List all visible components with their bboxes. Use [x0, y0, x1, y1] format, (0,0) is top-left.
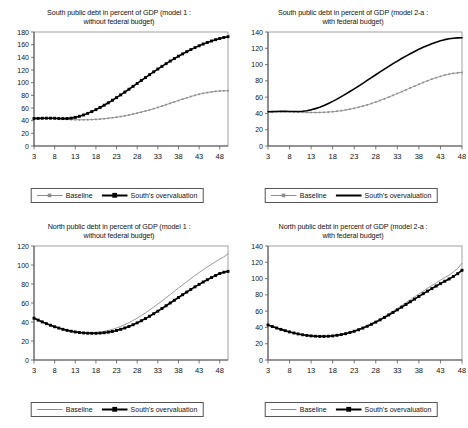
series-marker — [132, 323, 135, 326]
series-marker — [327, 335, 330, 338]
series-marker — [430, 287, 433, 290]
series-marker — [396, 308, 399, 311]
series-marker — [156, 68, 159, 71]
series-marker — [222, 271, 225, 274]
series-marker — [53, 325, 56, 328]
series-marker — [353, 330, 356, 333]
y-tick-label: 140 — [251, 29, 263, 36]
series-marker — [366, 325, 369, 328]
legend-label-overvaluation: South's overvaluation — [131, 405, 198, 414]
series-marker — [210, 40, 213, 43]
series-marker — [198, 283, 201, 286]
x-tick-label: 48 — [458, 366, 466, 375]
x-tick-label: 43 — [436, 152, 444, 161]
x-tick-label: 48 — [216, 366, 224, 375]
series-marker — [361, 327, 364, 330]
series-marker — [461, 269, 464, 272]
series-marker — [457, 72, 459, 74]
series-marker — [177, 296, 180, 299]
series-marker — [70, 330, 73, 333]
series-marker — [314, 335, 317, 338]
legend-key-baseline-icon — [271, 191, 297, 200]
series-marker — [86, 332, 89, 335]
series-marker — [206, 278, 209, 281]
y-tick-label: 80 — [255, 77, 263, 84]
x-tick-label: 23 — [350, 152, 358, 161]
series-marker — [61, 117, 64, 120]
series-marker — [136, 82, 139, 85]
series-marker — [99, 118, 101, 120]
series-marker — [103, 104, 106, 107]
series-marker — [140, 111, 142, 113]
plot-svg-north-model-1: 020406080100120381318232833384348 — [0, 240, 234, 392]
series-marker — [78, 331, 81, 334]
legend-item-overvaluation: South's overvaluation — [336, 191, 432, 200]
plot-svg-south-model-1: 0204060801001201401601803813182328333843… — [0, 26, 234, 178]
plot-area-south-model-2a: 020406080100120140381318232833384348 — [234, 26, 468, 178]
x-tick-label: 33 — [393, 152, 401, 161]
series-marker — [173, 101, 175, 103]
series-marker — [90, 332, 93, 335]
series-marker — [70, 117, 73, 120]
series-marker — [90, 110, 93, 113]
legend-label-baseline: Baseline — [66, 405, 93, 414]
series-marker — [120, 116, 122, 118]
series-marker — [169, 102, 171, 104]
series-marker — [87, 119, 89, 121]
series-marker — [279, 328, 282, 331]
chart-title-line-1: South public debt in percent of GDP (mod… — [278, 8, 428, 17]
series-marker — [214, 274, 217, 277]
legend-item-baseline: Baseline — [37, 191, 93, 200]
y-tick-label: 60 — [21, 300, 29, 307]
series-marker — [357, 328, 360, 331]
series-marker — [107, 117, 109, 119]
series-marker — [358, 106, 360, 108]
y-tick-label: 0 — [25, 143, 29, 150]
series-marker — [219, 90, 221, 92]
x-tick-label: 23 — [350, 366, 358, 375]
series-marker — [127, 325, 130, 328]
series-marker — [400, 306, 403, 309]
y-tick-label: 20 — [21, 130, 29, 137]
series-marker — [401, 91, 403, 93]
series-marker — [82, 331, 85, 334]
series-marker — [57, 327, 60, 330]
y-tick-label: 0 — [259, 143, 263, 150]
legend-label-baseline: Baseline — [300, 405, 327, 414]
legend-item-overvaluation: South's overvaluation — [336, 405, 432, 414]
series-line-baseline — [268, 263, 462, 336]
x-tick-label: 8 — [53, 152, 57, 161]
x-tick-label: 8 — [53, 366, 57, 375]
series-marker — [61, 328, 64, 331]
series-marker — [384, 98, 386, 100]
series-marker — [218, 37, 221, 40]
series-marker — [456, 272, 459, 275]
series-marker — [94, 332, 97, 335]
series-marker — [315, 112, 317, 114]
series-marker — [161, 307, 164, 310]
series-marker — [140, 319, 143, 322]
y-tick-label: 80 — [21, 92, 29, 99]
y-tick-label: 40 — [255, 110, 263, 117]
y-tick-label: 0 — [25, 357, 29, 364]
chart-title-south-model-1: South public debt in percent of GDP (mod… — [10, 8, 228, 27]
legend-key-overvaluation-icon — [102, 191, 128, 200]
series-marker — [94, 108, 97, 111]
y-tick-label: 20 — [21, 338, 29, 345]
series-marker — [409, 87, 411, 89]
y-tick-label: 40 — [255, 324, 263, 331]
series-marker — [453, 73, 455, 75]
series-marker — [409, 300, 412, 303]
series-marker — [210, 276, 213, 279]
series-marker — [288, 330, 291, 333]
chart-panel-south-model-1: South public debt in percent of GDP (mod… — [0, 0, 234, 214]
series-marker — [227, 270, 230, 273]
legend-key-overvaluation-icon — [336, 405, 362, 414]
series-marker — [422, 82, 424, 84]
series-marker — [153, 108, 155, 110]
series-marker — [422, 292, 425, 295]
legend-label-overvaluation: South's overvaluation — [365, 191, 432, 200]
series-marker — [366, 104, 368, 106]
series-marker — [198, 93, 200, 95]
x-tick-label: 38 — [415, 152, 423, 161]
